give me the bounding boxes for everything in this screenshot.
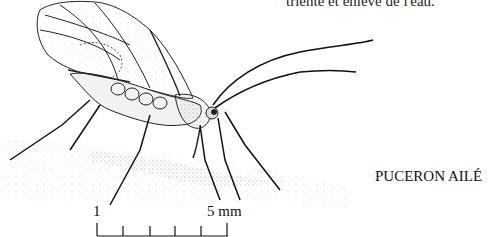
scale-bar-lines [0, 0, 488, 237]
